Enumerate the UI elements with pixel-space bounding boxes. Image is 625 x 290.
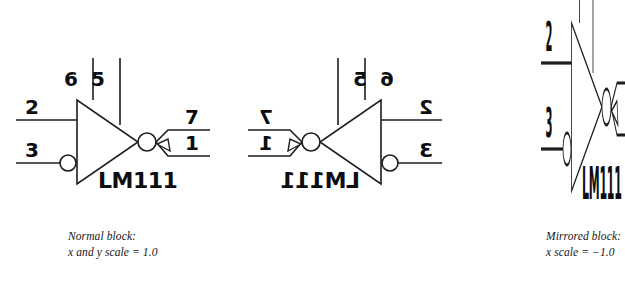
- inverting-input-bubble: [563, 133, 571, 165]
- pin-label-6: 6: [565, 0, 572, 5]
- open-collector-arrow-icon: [288, 139, 301, 151]
- figure-canvas: 6 5 2 3 7 1 LM111 Normal block: x and y …: [0, 0, 625, 290]
- pin-label-5: 5: [579, 0, 586, 5]
- open-collector-arrow-icon: [612, 101, 619, 125]
- panel-mirrored-block: 6 5 2 3 7 1 LM111 Mirrored block: x scal…: [240, 0, 440, 290]
- lm111-symbol-distorted[interactable]: 6 5 2 3 7 1 LM111: [538, 0, 625, 227]
- symbol-area-normal: 6 5 2 3 7 1 LM111: [0, 0, 230, 215]
- caption-line-1: x and y scale = 1.0: [68, 244, 158, 260]
- symbol-area-mirrored: 6 5 2 3 7 1 LM111: [240, 0, 440, 215]
- inverting-input-bubble: [60, 155, 76, 171]
- pin-label-3: 3: [25, 138, 39, 162]
- pin-label-1: 1: [185, 131, 199, 155]
- pin-label-6: 6: [64, 67, 78, 91]
- device-name-label: LM111: [281, 168, 360, 193]
- panel-distorted-block: 6 5 2 3 7 1 LM111 Distorted block: x sca…: [460, 0, 625, 290]
- pin-label-2: 2: [25, 95, 39, 119]
- pin-label-6: 6: [380, 67, 394, 91]
- caption-normal-block: Normal block: x and y scale = 1.0: [68, 228, 158, 260]
- device-name-label: LM111: [582, 158, 622, 210]
- pin-label-2: 2: [419, 95, 433, 119]
- pin-label-7: 7: [185, 105, 199, 129]
- pin-label-1: 1: [259, 131, 273, 155]
- symbol-area-distorted: 6 5 2 3 7 1 LM111: [460, 0, 625, 215]
- output-bubble: [138, 133, 156, 151]
- pin-7-wire: [611, 83, 625, 107]
- pin-label-3: 3: [419, 138, 433, 162]
- output-bubble: [602, 89, 611, 125]
- pin-label-3: 3: [546, 100, 553, 147]
- lm111-symbol-normal[interactable]: 6 5 2 3 7 1 LM111: [10, 52, 210, 202]
- panel-normal-block: 6 5 2 3 7 1 LM111 Normal block: x and y …: [0, 0, 230, 290]
- pin-label-5: 5: [91, 67, 105, 91]
- pin-label-5: 5: [353, 67, 367, 91]
- caption-title: Normal block:: [68, 228, 158, 244]
- output-bubble: [302, 133, 320, 151]
- device-name-label: LM111: [98, 168, 177, 193]
- inverting-input-bubble: [382, 155, 398, 171]
- open-collector-arrow-icon: [157, 139, 170, 151]
- pin-label-7: 7: [259, 105, 273, 129]
- lm111-symbol-mirrored[interactable]: 6 5 2 3 7 1 LM111: [248, 52, 448, 202]
- pin-label-2: 2: [546, 14, 553, 61]
